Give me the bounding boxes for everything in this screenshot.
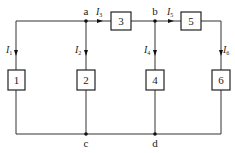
node-b: b: [152, 5, 158, 23]
element-2-label: 2: [83, 74, 89, 86]
element-6: 6: [212, 70, 230, 90]
current-label-i1: I1: [5, 44, 12, 56]
arrow-down-icon: [153, 50, 157, 56]
circuit-diagram: 1 2 3 4 5 6 a b c d: [0, 0, 235, 153]
arrow-right-icon: [168, 19, 174, 23]
element-6-label: 6: [218, 74, 224, 86]
node-c-label: c: [84, 137, 89, 149]
element-4: 4: [146, 70, 164, 90]
current-label-i3: I3: [95, 6, 102, 18]
current-label-i4: I4: [143, 44, 150, 56]
element-3-label: 3: [118, 15, 124, 27]
node-d: d: [152, 132, 158, 149]
element-5-label: 5: [188, 15, 194, 27]
node-a: a: [84, 5, 89, 23]
arrow-down-icon: [84, 50, 88, 56]
element-3: 3: [111, 12, 131, 30]
element-1-label: 1: [14, 74, 20, 86]
node-a-label: a: [84, 5, 89, 17]
arrow-right-icon: [97, 19, 103, 23]
element-5: 5: [181, 12, 201, 30]
wires: [16, 21, 221, 134]
node-b-label: b: [152, 5, 158, 17]
current-label-i2: I2: [74, 44, 81, 56]
element-1: 1: [8, 70, 25, 90]
node-d-label: d: [152, 137, 158, 149]
current-label-i5: I5: [166, 6, 173, 18]
current-label-i6: I6: [222, 44, 229, 56]
element-4-label: 4: [152, 74, 158, 86]
node-c: c: [84, 132, 89, 149]
element-2: 2: [77, 70, 95, 90]
arrow-down-icon: [14, 50, 18, 56]
